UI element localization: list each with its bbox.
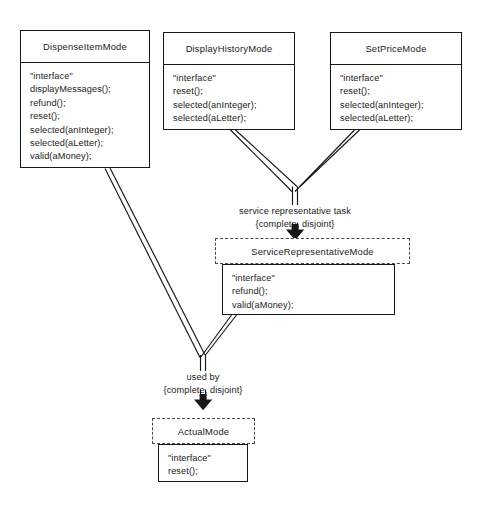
operation: selected(anInteger); <box>30 124 149 137</box>
class-header-dispense-item-mode: DispenseItemMode <box>20 30 150 63</box>
operation: "interface" <box>232 272 394 285</box>
operation: selected(aLetter); <box>340 112 461 125</box>
operation: valid(aMoney); <box>30 150 149 163</box>
class-service-representative-mode[interactable]: ServiceRepresentativeMode "interface" re… <box>215 238 410 315</box>
generalization-set-constraint: {complete, disjoint} <box>103 384 303 397</box>
operation: refund(); <box>30 97 149 110</box>
operation: "interface" <box>340 72 461 85</box>
connector-displayhistory-to-junction <box>231 130 298 192</box>
operation: selected(anInteger); <box>340 99 461 112</box>
operation: reset(); <box>168 465 247 478</box>
class-header-display-history-mode: DisplayHistoryMode <box>163 32 295 65</box>
operation: reset(); <box>30 110 149 123</box>
operation: reset(); <box>340 85 461 98</box>
class-body-service-representative-mode: "interface" refund(); valid(aMoney); <box>222 264 395 315</box>
generalization-set-label-service-representative-task: service representative task {complete, d… <box>195 205 395 230</box>
generalization-set-constraint: {complete, disjoint} <box>195 218 395 231</box>
class-header-set-price-mode: SetPriceMode <box>330 32 462 65</box>
operation: "interface" <box>30 70 149 83</box>
class-actual-mode[interactable]: ActualMode "interface" reset(); <box>152 418 255 482</box>
class-body-dispense-item-mode: "interface" displayMessages(); refund();… <box>20 63 150 168</box>
class-body-set-price-mode: "interface" reset(); selected(anInteger)… <box>330 65 462 130</box>
class-body-actual-mode: "interface" reset(); <box>158 444 248 482</box>
operation: valid(aMoney); <box>232 299 394 312</box>
operation: "interface" <box>173 72 294 85</box>
operation: refund(); <box>232 285 394 298</box>
operation: displayMessages(); <box>30 83 149 96</box>
generalization-set-name: used by <box>103 371 303 384</box>
connector-setprice-to-junction <box>295 130 360 192</box>
class-dispense-item-mode[interactable]: DispenseItemMode "interface" displayMess… <box>20 30 150 168</box>
class-name-actual-mode: ActualMode <box>178 426 229 437</box>
class-set-price-mode[interactable]: SetPriceMode "interface" reset(); select… <box>330 32 462 130</box>
class-header-actual-mode: ActualMode <box>152 418 255 444</box>
class-header-service-representative-mode: ServiceRepresentativeMode <box>215 238 410 264</box>
operation: selected(aLetter); <box>173 112 294 125</box>
operation: selected(anInteger); <box>173 99 294 112</box>
connector-servicerep-to-junction <box>201 315 237 358</box>
generalization-set-label-used-by: used by {complete, disjoint} <box>103 371 303 396</box>
uml-class-diagram-canvas: DispenseItemMode "interface" displayMess… <box>0 0 479 512</box>
class-body-display-history-mode: "interface" reset(); selected(anInteger)… <box>163 65 295 130</box>
class-name-dispense-item-mode: DispenseItemMode <box>43 41 127 52</box>
class-name-set-price-mode: SetPriceMode <box>365 43 426 54</box>
operation: selected(aLetter); <box>30 137 149 150</box>
operation: "interface" <box>168 452 247 465</box>
connector-dispenseitem-to-junction <box>105 168 205 358</box>
generalization-arrowhead-actualmode <box>194 394 212 410</box>
class-name-service-representative-mode: ServiceRepresentativeMode <box>251 246 373 257</box>
class-name-display-history-mode: DisplayHistoryMode <box>186 43 273 54</box>
operation: reset(); <box>173 85 294 98</box>
class-display-history-mode[interactable]: DisplayHistoryMode "interface" reset(); … <box>163 32 295 130</box>
generalization-set-name: service representative task <box>195 205 395 218</box>
